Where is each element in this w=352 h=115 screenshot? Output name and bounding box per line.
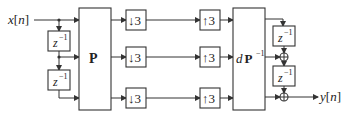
delay-block-2: z −1 <box>48 70 70 90</box>
svg-text:↓3: ↓3 <box>128 91 141 106</box>
adder-2 <box>280 93 288 101</box>
svg-text:P: P <box>89 51 98 66</box>
svg-text:z: z <box>52 36 58 50</box>
svg-text:↑3: ↑3 <box>202 91 215 106</box>
svg-text:−1: −1 <box>59 72 68 81</box>
svg-text:dP: dP <box>236 51 253 66</box>
svg-text:↓3: ↓3 <box>128 50 141 65</box>
svg-text:z: z <box>52 75 58 89</box>
svg-text:−1: −1 <box>284 28 293 37</box>
svg-text:z: z <box>277 31 283 45</box>
svg-text:−1: −1 <box>59 33 68 42</box>
synthesis-matrix-block: dP −1 <box>233 8 265 110</box>
adder-1 <box>280 53 288 61</box>
output-label: y[n] <box>318 89 341 104</box>
wire <box>265 19 283 26</box>
svg-text:−1: −1 <box>284 68 293 77</box>
delay-block-1: z −1 <box>48 31 70 51</box>
svg-text:↑3: ↑3 <box>202 13 215 28</box>
polyphase-block-diagram: x[n] z −1 z −1 P ↓3 ↑3 ↓3 ↑3 <box>0 0 352 115</box>
input-label: x[n] <box>7 12 29 27</box>
svg-text:↑3: ↑3 <box>202 50 215 65</box>
svg-text:↓3: ↓3 <box>128 13 141 28</box>
svg-text:z: z <box>277 71 283 85</box>
channel-rows: ↓3 ↑3 ↓3 ↑3 ↓3 ↑3 <box>111 10 233 108</box>
delay-block-4: z −1 <box>273 66 295 86</box>
delay-block-3: z −1 <box>273 26 295 46</box>
analysis-matrix-block: P <box>79 8 111 110</box>
wire-input-bottom <box>59 90 79 98</box>
svg-text:−1: −1 <box>256 49 265 58</box>
